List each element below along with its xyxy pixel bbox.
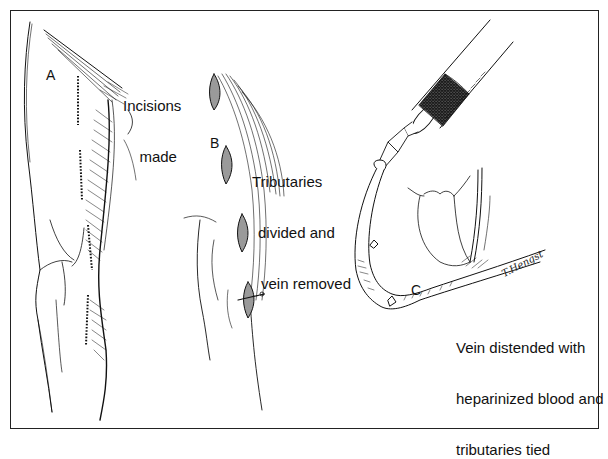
caption-a-line-2: made (123, 148, 181, 165)
syringe (378, 20, 513, 168)
panel-label-c: C (411, 283, 421, 297)
caption-panel-a: Incisions made (123, 63, 181, 182)
caption-panel-b: Tributaries divided and vein removed (252, 139, 351, 309)
incision-dotted-lines (78, 76, 92, 345)
incision-windows (210, 74, 255, 318)
panel-a-leg-drawing (24, 22, 136, 420)
caption-a-line-1: Incisions (123, 97, 181, 114)
distended-vein (355, 160, 545, 309)
retracted-tissue-flap (408, 168, 490, 268)
caption-b-line-1: Tributaries (252, 173, 351, 190)
caption-c-line-2: heparinized blood and (456, 390, 604, 407)
caption-c-line-1: Vein distended with (456, 339, 604, 356)
caption-b-line-3: vein removed (252, 275, 351, 292)
caption-c-line-3: tributaries tied (456, 441, 604, 458)
panel-label-a: A (46, 68, 55, 82)
caption-b-line-2: divided and (252, 224, 351, 241)
caption-panel-c: Vein distended with heparinized blood an… (456, 305, 604, 459)
panel-label-b: B (210, 136, 219, 150)
